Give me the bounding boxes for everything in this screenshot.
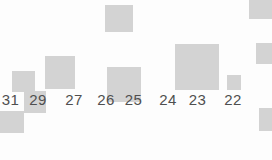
timeline-strip: 3129272625242322 xyxy=(0,0,272,160)
day-label-25: 25 xyxy=(125,92,143,107)
day-label-27: 27 xyxy=(65,92,83,107)
day-label-31: 31 xyxy=(2,92,20,107)
date-labels-row: 3129272625242322 xyxy=(0,0,272,160)
day-label-23: 23 xyxy=(189,92,207,107)
day-label-22: 22 xyxy=(224,92,242,107)
day-label-29: 29 xyxy=(29,92,47,107)
day-label-24: 24 xyxy=(159,92,177,107)
day-label-26: 26 xyxy=(97,92,115,107)
